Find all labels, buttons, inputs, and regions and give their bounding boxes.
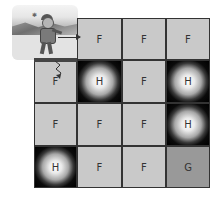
cell-label: H bbox=[184, 76, 192, 87]
grid-cell-goal: G bbox=[166, 146, 210, 188]
cell-label: F bbox=[141, 119, 147, 130]
cell-label: F bbox=[185, 34, 191, 45]
cell-label: F bbox=[141, 34, 147, 45]
cell-label: F bbox=[53, 119, 59, 130]
grid-cell-frozen: F bbox=[122, 18, 166, 60]
grid-cell-hole: H bbox=[77, 60, 122, 103]
cell-label: F bbox=[97, 119, 103, 130]
grid-cell-hole: H bbox=[34, 146, 77, 188]
grid-cell-frozen: F bbox=[77, 146, 122, 188]
grid-cell-frozen: F bbox=[122, 60, 166, 103]
grid-cell-hole: H bbox=[166, 103, 210, 146]
grid: F F F F H F H F F F H H F F G bbox=[34, 18, 210, 188]
grid-cell-frozen: F bbox=[34, 103, 77, 146]
grid-cell-frozen: F bbox=[122, 103, 166, 146]
squiggle-arrow-down-icon bbox=[52, 60, 66, 80]
cell-label: F bbox=[141, 162, 147, 173]
cell-label: H bbox=[96, 76, 104, 87]
cell-label: H bbox=[184, 119, 192, 130]
cell-label: F bbox=[97, 34, 103, 45]
cell-label: H bbox=[52, 162, 60, 173]
cell-label: F bbox=[97, 162, 103, 173]
grid-cell-hole: H bbox=[166, 60, 210, 103]
grid-cell-frozen: F bbox=[166, 18, 210, 60]
cell-label: G bbox=[184, 162, 192, 173]
grid-cell-frozen: F bbox=[77, 103, 122, 146]
grid-cell-frozen: F bbox=[77, 18, 122, 60]
arrow-right-icon bbox=[58, 37, 80, 38]
cell-label: F bbox=[141, 76, 147, 87]
grid-cell-frozen: F bbox=[122, 146, 166, 188]
